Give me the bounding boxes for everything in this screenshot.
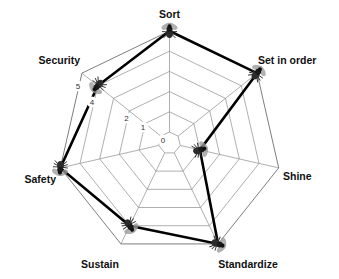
radar-chart-container: 54210 SortSet in orderShineStandardizeSu…	[0, 0, 339, 279]
axis-label-security: Security	[39, 54, 81, 66]
axis-label-safety: Safety	[24, 173, 56, 185]
tick-label-1: 1	[141, 123, 146, 132]
tick-label-2: 2	[124, 114, 129, 123]
grid-spoke-5	[60, 145, 158, 167]
radar-chart-svg: 54210 SortSet in orderShineStandardizeSu…	[0, 0, 339, 279]
axis-label-shine: Shine	[283, 170, 312, 182]
grid-spoke-3	[174, 153, 218, 244]
axis-label-standardize: Standardize	[218, 258, 278, 270]
axis-label-sustain: Sustain	[81, 258, 119, 270]
axis-label-set-in-order: Set in order	[258, 54, 316, 66]
tick-label-5: 5	[76, 82, 81, 91]
tick-label-4: 4	[90, 98, 95, 107]
radial-tick-labels: 54210	[73, 81, 169, 146]
grid-layer	[60, 31, 278, 244]
tick-label-0: 0	[161, 136, 166, 145]
axis-label-sort: Sort	[159, 8, 181, 20]
